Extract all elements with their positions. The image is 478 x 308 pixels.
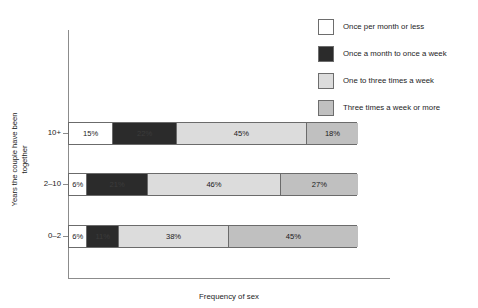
legend-label: Once per month or less bbox=[343, 22, 424, 32]
x-axis-title: Frequency of sex bbox=[68, 292, 390, 301]
x-axis-line bbox=[68, 278, 390, 279]
bar-segment-label: 38% bbox=[166, 232, 181, 241]
y-axis-title: Years the couple have been together bbox=[10, 105, 29, 215]
bar-segment-label: 18% bbox=[325, 129, 340, 138]
bar-segment-label: 27% bbox=[312, 180, 327, 189]
bar-row: 6%11%38%45% bbox=[68, 225, 357, 248]
legend-item: Once per month or less bbox=[318, 14, 474, 39]
bar-segment: 38% bbox=[118, 226, 228, 247]
chart-legend: Once per month or lessOnce a month to on… bbox=[318, 14, 474, 122]
bar-segment-label: 22% bbox=[137, 129, 152, 138]
legend-label: Three times a week or more bbox=[343, 103, 440, 113]
legend-item: Three times a week or more bbox=[318, 95, 474, 120]
bar-segment: 11% bbox=[86, 226, 118, 247]
bar-segment: 22% bbox=[112, 123, 176, 144]
bar-segment-label: 11% bbox=[95, 232, 110, 241]
y-axis-tick bbox=[63, 236, 68, 237]
bar-segment-label: 45% bbox=[286, 232, 301, 241]
bar-segment: 21% bbox=[86, 174, 147, 195]
y-axis-tick bbox=[63, 133, 68, 134]
bar-segment: 15% bbox=[69, 123, 112, 144]
bar-segment: 18% bbox=[306, 123, 358, 144]
bar-segment-label: 6% bbox=[72, 232, 83, 241]
legend-item: Once a month to once a week bbox=[318, 41, 474, 66]
bar-segment-label: 6% bbox=[72, 180, 83, 189]
bar-segment-label: 15% bbox=[83, 129, 98, 138]
bar-segment-label: 46% bbox=[206, 180, 221, 189]
bar-row: 6%21%46%27% bbox=[68, 173, 357, 196]
bar-segment: 46% bbox=[147, 174, 280, 195]
legend-swatch bbox=[318, 46, 334, 62]
bar-segment: 6% bbox=[69, 226, 86, 247]
y-axis-tick-label-wrap: 0–2 bbox=[0, 231, 61, 243]
legend-item: One to three times a week bbox=[318, 68, 474, 93]
y-axis-tick-label: 0–2 bbox=[17, 231, 61, 240]
y-axis-tick bbox=[63, 184, 68, 185]
bar-segment: 27% bbox=[280, 174, 358, 195]
bar-segment-label: 45% bbox=[234, 129, 249, 138]
bar-segment: 45% bbox=[228, 226, 358, 247]
legend-swatch bbox=[318, 100, 334, 116]
stacked-bar-chart: 15%22%45%18%6%21%46%27%6%11%38%45% 10+2–… bbox=[0, 0, 478, 308]
legend-label: One to three times a week bbox=[343, 76, 434, 86]
bar-segment: 6% bbox=[69, 174, 86, 195]
legend-swatch bbox=[318, 73, 334, 89]
bar-segment-label: 21% bbox=[110, 180, 125, 189]
legend-label: Once a month to once a week bbox=[343, 49, 447, 59]
bar-segment: 45% bbox=[176, 123, 306, 144]
bar-row: 15%22%45%18% bbox=[68, 122, 357, 145]
legend-swatch bbox=[318, 19, 334, 35]
